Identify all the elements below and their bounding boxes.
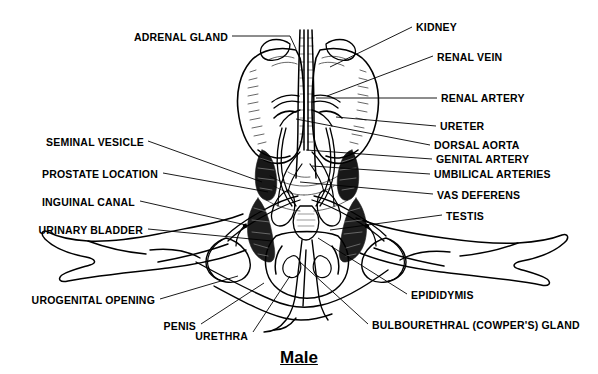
label-penis: PENIS bbox=[163, 321, 196, 332]
label-seminal-vesicle: SEMINAL VESICLE bbox=[46, 137, 144, 148]
label-urinary-bladder: URINARY BLADDER bbox=[38, 225, 143, 236]
label-testis: TESTIS bbox=[446, 211, 484, 222]
label-kidney: KIDNEY bbox=[416, 22, 457, 33]
label-dorsal-aorta: DORSAL AORTA bbox=[434, 140, 520, 151]
label-vas-deferens: VAS DEFERENS bbox=[437, 190, 520, 201]
figure-title: Male bbox=[0, 348, 598, 368]
label-umbilical-arteries: UMBILICAL ARTERIES bbox=[434, 169, 551, 180]
label-renal-vein: RENAL VEIN bbox=[437, 52, 502, 63]
male-urogenital-diagram bbox=[0, 0, 598, 374]
label-bulbourethral-gland: BULBOURETHRAL (COWPER'S) GLAND bbox=[372, 320, 580, 331]
label-epididymis: EPIDIDYMIS bbox=[411, 290, 474, 301]
label-prostate-location: PROSTATE LOCATION bbox=[42, 169, 158, 180]
label-genital-artery: GENITAL ARTERY bbox=[436, 154, 529, 165]
label-inguinal-canal: INGUINAL CANAL bbox=[42, 197, 135, 208]
label-urethra: URETHRA bbox=[195, 331, 248, 342]
label-urogenital-opening: UROGENITAL OPENING bbox=[32, 295, 155, 306]
label-renal-artery: RENAL ARTERY bbox=[441, 93, 525, 104]
label-ureter: URETER bbox=[440, 121, 484, 132]
label-adrenal-gland: ADRENAL GLAND bbox=[134, 32, 228, 43]
